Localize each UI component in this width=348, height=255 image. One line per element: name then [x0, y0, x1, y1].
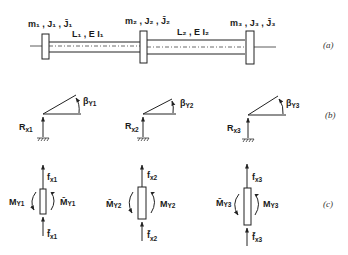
moment-arrow-left-2 — [129, 192, 133, 213]
ground-hatch-icon — [37, 138, 49, 141]
rotation-arrow-2 — [172, 101, 173, 113]
angle-label-3: βY3 — [286, 98, 300, 109]
moment-arrow-left-1 — [32, 192, 36, 210]
angle-label-1: βY1 — [83, 96, 97, 107]
moment-arrow-left-3 — [235, 194, 239, 215]
moment-label-right-3: MY3 — [263, 199, 279, 209]
moment-arrow-right-1 — [51, 192, 54, 210]
moment-arrow-right-3 — [255, 194, 259, 215]
shaft-model-diagram: m₁ , J₁ , J̄₁ m₂ , J₂ , J̄₂ m₃ , J₃ , J̄… — [0, 0, 348, 255]
disk-3 — [246, 31, 254, 64]
part-label-a: (a) — [323, 40, 334, 50]
disk-2-label: m₂ , J₂ , J̄₂ — [125, 16, 170, 26]
moment-label-left-2: M̄Y2 — [106, 199, 122, 209]
part-label-b: (b) — [325, 110, 336, 120]
disk-2 — [140, 31, 147, 63]
free-body-3: fx3 f̄x3 M̄Y3 MY3 (c) — [216, 164, 333, 246]
reaction-label-2: Rx2 — [125, 121, 139, 133]
force-label-bottom-3: f̄x3 — [252, 232, 263, 243]
rotation-arrow-3 — [279, 99, 283, 114]
moment-label-left-3: M̄Y3 — [216, 198, 232, 208]
rotation-arrow-1 — [76, 98, 79, 113]
force-label-bottom-2: f̄x2 — [147, 230, 158, 242]
shaft-segment-1 — [49, 42, 140, 52]
disk-3-label: m₃ , J₃ , J̄₃ — [230, 18, 276, 28]
ground-hatch-icon — [242, 139, 254, 142]
disk-1 — [42, 34, 49, 59]
element-body-1 — [40, 189, 46, 214]
support-3: Rx3 βY3 (b) — [227, 96, 336, 142]
force-label-bottom-1: f̄x1 — [47, 229, 58, 240]
reaction-label-1: Rx1 — [19, 122, 33, 133]
free-body-1: fx1 f̄x1 MY1 M̄Y1 — [9, 165, 76, 240]
element-body-3 — [244, 188, 251, 225]
force-label-top-3: fx3 — [252, 172, 263, 183]
moment-label-left-1: MY1 — [9, 197, 25, 207]
segment-2-label: L₂ , E I₂ — [177, 27, 209, 37]
free-body-2: fx2 f̄x2 M̄Y2 MY2 — [106, 165, 176, 242]
moment-label-right-1: M̄Y1 — [60, 197, 76, 207]
moment-arrow-right-2 — [151, 192, 155, 213]
force-label-top-1: fx1 — [47, 172, 58, 183]
reaction-label-3: Rx3 — [227, 123, 241, 134]
ground-hatch-icon — [137, 138, 149, 141]
shaft-segment-2 — [147, 40, 245, 54]
element-body-2 — [138, 187, 146, 219]
disk-1-label: m₁ , J₁ , J̄₁ — [28, 19, 72, 29]
moment-label-right-2: MY2 — [160, 199, 176, 209]
support-1: Rx1 βY1 — [19, 95, 97, 141]
shaft-assembly: m₁ , J₁ , J̄₁ m₂ , J₂ , J̄₂ m₃ , J₃ , J̄… — [28, 16, 334, 64]
part-label-c: (c) — [323, 199, 333, 209]
support-2: Rx2 βY2 — [125, 98, 194, 141]
angle-label-2: βY2 — [180, 98, 194, 109]
segment-1-label: L₁ , E I₁ — [72, 29, 104, 39]
force-label-top-2: fx2 — [147, 170, 158, 181]
